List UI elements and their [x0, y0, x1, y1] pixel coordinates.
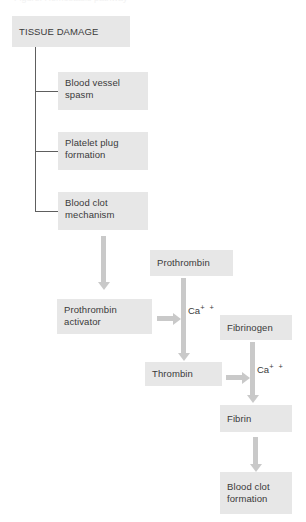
box-blood-clot-formation: Blood clot formation: [220, 472, 292, 514]
connector-stub-blood-vessel-spasm: [35, 91, 58, 92]
box-tissue-damage: TISSUE DAMAGE: [12, 16, 130, 47]
box-fibrinogen: Fibrinogen: [220, 315, 292, 340]
label-calcium-ion-1: Ca+ +: [188, 303, 216, 316]
calcium-charge-2: + +: [269, 362, 284, 371]
label-calcium-ion-2: Ca+ +: [257, 362, 285, 375]
connector-stub-blood-clot-mechanism: [35, 211, 58, 212]
calcium-charge-1: + +: [200, 303, 215, 312]
box-blood-clot-mechanism: Blood clot mechanism: [58, 192, 148, 230]
connector-spine-vertical: [35, 47, 36, 212]
connector-stub-platelet-plug: [35, 151, 58, 152]
box-thrombin: Thrombin: [145, 362, 222, 386]
hemostasis-flowchart: Figure: Hemostasis pathway TISSUE DAMAGE…: [0, 0, 306, 522]
box-platelet-plug-formation: Platelet plug formation: [58, 132, 148, 170]
box-prothrombin-activator: Prothrombin activator: [57, 299, 152, 334]
calcium-symbol-1: Ca: [188, 305, 200, 316]
box-prothrombin: Prothrombin: [150, 250, 233, 276]
clipped-figure-heading: Figure: Hemostasis pathway: [14, 0, 128, 3]
box-blood-vessel-spasm: Blood vessel spasm: [58, 72, 148, 110]
box-fibrin: Fibrin: [220, 405, 292, 432]
calcium-symbol-2: Ca: [257, 364, 269, 375]
